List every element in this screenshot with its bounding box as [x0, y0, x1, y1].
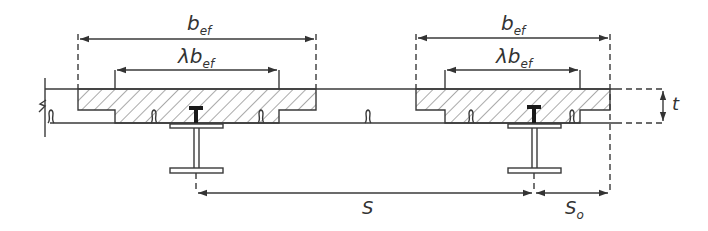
- label-edge-spacing: So: [565, 197, 584, 222]
- label-b-ef-right: bef: [501, 11, 527, 38]
- label-thickness: t: [672, 93, 680, 114]
- steel-beam-right: [508, 124, 561, 173]
- composite-slab-diagram: bef λbef bef λbef S So t: [0, 0, 708, 231]
- steel-beam-left: [170, 124, 223, 173]
- effective-slab-right: [416, 89, 610, 123]
- label-spacing: S: [362, 197, 373, 218]
- label-lambda-b-ef-left: λbef: [177, 44, 216, 71]
- label-b-ef-left: bef: [187, 11, 213, 38]
- label-lambda-b-ef-right: λbef: [495, 44, 534, 71]
- break-symbol-icon: [39, 78, 46, 137]
